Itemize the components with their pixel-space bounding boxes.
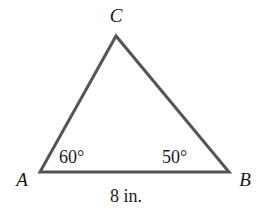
triangle-diagram: C A B 60° 50° 8 in. xyxy=(0,0,263,217)
vertex-label-b: B xyxy=(239,169,251,190)
vertex-label-c: C xyxy=(110,5,123,26)
angle-b-label: 50° xyxy=(162,147,187,167)
vertex-label-a: A xyxy=(14,169,28,190)
side-ab-label: 8 in. xyxy=(110,186,142,206)
angle-a-label: 60° xyxy=(59,147,84,167)
